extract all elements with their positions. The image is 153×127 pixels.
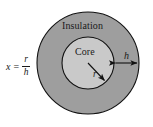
radius-label: r bbox=[93, 70, 97, 80]
thickness-label: h bbox=[124, 51, 129, 61]
insulation-label: Insulation bbox=[62, 21, 103, 31]
insulation-core-diagram: x = r h Insulation Core h r bbox=[0, 0, 153, 127]
equation-variable: x bbox=[6, 61, 10, 72]
equation-fraction: r h bbox=[22, 55, 30, 77]
core-label: Core bbox=[75, 47, 95, 57]
fraction-denominator: h bbox=[23, 67, 30, 78]
fraction-numerator: r bbox=[23, 55, 29, 66]
relation-equation: x = r h bbox=[6, 55, 30, 77]
equation-equals-sign: = bbox=[13, 61, 19, 72]
